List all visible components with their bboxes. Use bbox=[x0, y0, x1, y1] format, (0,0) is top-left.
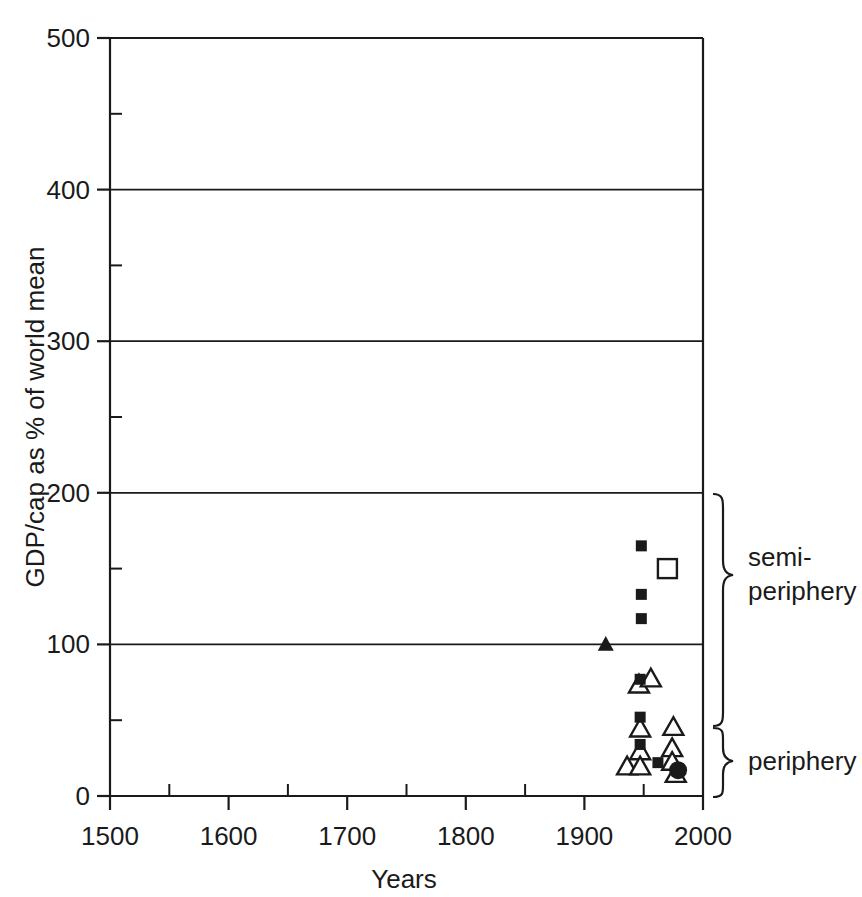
data-point bbox=[635, 674, 646, 685]
x-axis-title: Years bbox=[371, 864, 437, 894]
figure-background bbox=[0, 0, 862, 897]
data-point bbox=[669, 761, 687, 779]
data-point bbox=[635, 712, 646, 723]
data-point bbox=[636, 540, 647, 551]
xtick-label-2000: 2000 bbox=[674, 821, 732, 851]
ytick-label-0: 0 bbox=[76, 781, 90, 811]
xtick-label-1900: 1900 bbox=[555, 821, 613, 851]
series-filled-circle bbox=[669, 761, 687, 779]
ytick-label-400: 400 bbox=[47, 175, 90, 205]
data-point bbox=[636, 613, 647, 624]
semi-periphery-label-line1: semi- bbox=[748, 542, 812, 572]
data-point bbox=[658, 559, 677, 578]
ytick-label-300: 300 bbox=[47, 326, 90, 356]
ytick-label-100: 100 bbox=[47, 629, 90, 659]
data-point bbox=[652, 757, 663, 768]
periphery-label: periphery bbox=[748, 746, 856, 776]
ytick-label-500: 500 bbox=[47, 23, 90, 53]
scatter-plot-svg: 500 400 300 200 100 0 1500 1600 1700 180… bbox=[0, 0, 862, 897]
xtick-label-1500: 1500 bbox=[81, 821, 139, 851]
data-point bbox=[636, 589, 647, 600]
xtick-label-1600: 1600 bbox=[200, 821, 258, 851]
data-point bbox=[635, 739, 646, 750]
y-axis-title: GDP/cap as % of world mean bbox=[20, 246, 50, 587]
xtick-label-1700: 1700 bbox=[318, 821, 376, 851]
xtick-label-1800: 1800 bbox=[437, 821, 495, 851]
chart-figure: 500 400 300 200 100 0 1500 1600 1700 180… bbox=[0, 0, 862, 897]
semi-periphery-label-line2: periphery bbox=[748, 576, 856, 606]
ytick-label-200: 200 bbox=[47, 478, 90, 508]
series-open-square bbox=[658, 559, 677, 578]
